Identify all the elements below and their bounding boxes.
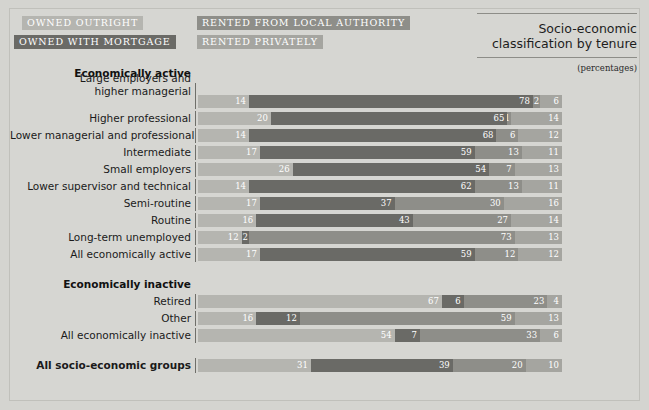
bar-segment-rented-from-local-authority: 20: [453, 359, 526, 372]
y-axis-line: [195, 328, 196, 343]
bar-segment-value: 54: [381, 329, 392, 342]
bar-segment-value: 67: [428, 295, 439, 308]
legend: OWNED OUTRIGHT OWNED WITH MORTGAGE RENTE…: [10, 16, 390, 60]
legend-label: RENTED PRIVATELY: [202, 36, 318, 47]
row-label: Other: [10, 311, 191, 326]
row-label: All economically active: [10, 247, 191, 262]
bar-segment-rented-from-local-authority: 7: [489, 163, 514, 176]
chart-row: Lower managerial and professional1468612: [10, 128, 639, 143]
bar-segment-value: 6: [554, 329, 559, 342]
bar-segment-owned-outright: 20: [198, 112, 271, 125]
chart-row: Small employers2654713: [10, 162, 639, 177]
stacked-bar: 17591212: [198, 248, 562, 261]
group-spacer: [10, 264, 639, 277]
bar-segment-value: 13: [508, 180, 519, 193]
title-line-1: Socio-economic: [477, 21, 637, 36]
bar-segment-value: 14: [235, 129, 246, 142]
bar-segment-value: 39: [439, 359, 450, 372]
bar-segment-value: 59: [461, 146, 472, 159]
bar-segment-rented-privately: 14: [511, 214, 562, 227]
legend-label: OWNED OUTRIGHT: [27, 17, 138, 28]
legend-item-rented-privately: RENTED PRIVATELY: [197, 35, 323, 49]
legend-item-owned-outright: OWNED OUTRIGHT: [22, 16, 143, 30]
bar-segment-value: 78: [519, 95, 530, 108]
bar-segment-value: 6: [554, 95, 559, 108]
row-label: Retired: [10, 294, 191, 309]
bar-segment-value: 20: [257, 112, 268, 125]
stacked-bar: 17591311: [198, 146, 562, 159]
chart-row: Other16125913: [10, 311, 639, 326]
bar-segment-value: 13: [548, 231, 559, 244]
bar-segment-value: 10: [548, 359, 559, 372]
bar-segment-value: 62: [461, 180, 472, 193]
bar-segment-value: 7: [412, 329, 417, 342]
bar-segment-value: 7: [506, 163, 511, 176]
title-line-2: classification by tenure: [477, 36, 637, 51]
y-axis-line: [195, 230, 196, 245]
bar-segment-value: 12: [228, 231, 239, 244]
bar-segment-value: 59: [461, 248, 472, 261]
title-rule-bottom: [477, 57, 637, 58]
bar-segment-rented-privately: 6: [540, 95, 562, 108]
y-axis-line: [195, 196, 196, 211]
y-axis-line: [195, 111, 196, 126]
bar-segment-owned-outright: 31: [198, 359, 311, 372]
group-spacer: [10, 345, 639, 358]
bar-segment-rented-privately: 13: [515, 231, 562, 244]
stacked-bar: 547336: [198, 329, 562, 342]
group-header: Economically inactive: [10, 277, 639, 291]
bar-segment-rented-from-local-authority: 13: [475, 146, 522, 159]
bar-segment-rented-from-local-authority: 23: [464, 295, 548, 308]
bar-segment-owned-outright: 12: [198, 231, 242, 244]
y-axis-line: [195, 311, 196, 326]
bar-segment-owned-outright: 26: [198, 163, 293, 176]
bar-segment-value: 20: [512, 359, 523, 372]
bar-segment-value: 6: [455, 295, 460, 308]
bar-segment-value: 2: [243, 231, 248, 244]
title-block: Socio-economic classification by tenure …: [477, 13, 637, 73]
bar-segment-value: 12: [504, 248, 515, 261]
chart-row: All economically active17591212: [10, 247, 639, 262]
bar-segment-value: 13: [548, 312, 559, 325]
bar-segment-value: 27: [497, 214, 508, 227]
bar-segment-value: 23: [534, 295, 545, 308]
bar-segment-rented-from-local-authority: 30: [395, 197, 504, 210]
bar-segment-rented-from-local-authority: 2: [533, 95, 540, 108]
stacked-bar: 31392010: [198, 359, 562, 372]
y-axis-line: [195, 83, 196, 109]
bar-segment-value: 30: [490, 197, 501, 210]
bar-segment-owned-with-mortgage: 68: [249, 129, 497, 142]
legend-item-owned-with-mortgage: OWNED WITH MORTGAGE: [14, 35, 176, 49]
bar-segment-owned-outright: 17: [198, 248, 260, 261]
chart-row: Lower supervisor and technical14621311: [10, 179, 639, 194]
row-label-line: higher managerial: [10, 85, 191, 98]
chart-row: Large employers andhigher managerial1478…: [10, 83, 639, 109]
bar-segment-value: 14: [235, 180, 246, 193]
row-label: Semi-routine: [10, 196, 191, 211]
bar-segment-value: 1: [507, 112, 510, 125]
row-label: Long-term unemployed: [10, 230, 191, 245]
bar-segment-owned-with-mortgage: 6: [442, 295, 464, 308]
stacked-bar: 1468612: [198, 129, 562, 142]
legend-label: RENTED FROM LOCAL AUTHORITY: [202, 17, 405, 28]
chart-row: Retired676234: [10, 294, 639, 309]
bar-segment-owned-with-mortgage: 37: [260, 197, 395, 210]
plot-area: Economically activeLarge employers andhi…: [10, 66, 639, 400]
bar-segment-value: 11: [548, 180, 559, 193]
bar-segment-owned-outright: 54: [198, 329, 395, 342]
row-label: All socio-economic groups: [10, 358, 191, 373]
bar-segment-value: 13: [548, 163, 559, 176]
stacked-bar: 16432714: [198, 214, 562, 227]
bar-segment-rented-from-local-authority: 33: [420, 329, 540, 342]
bar-segment-value: 14: [235, 95, 246, 108]
bar-segment-owned-with-mortgage: 39: [311, 359, 453, 372]
stacked-bar: 2654713: [198, 163, 562, 176]
bar-segment-value: 59: [501, 312, 512, 325]
bar-segment-rented-privately: 11: [522, 146, 562, 159]
y-axis-line: [195, 294, 196, 309]
bar-segment-value: 26: [279, 163, 290, 176]
bar-segment-value: 14: [548, 214, 559, 227]
page-title: Socio-economic classification by tenure: [477, 21, 637, 51]
stacked-bar: 16125913: [198, 312, 562, 325]
bar-segment-owned-outright: 14: [198, 95, 249, 108]
